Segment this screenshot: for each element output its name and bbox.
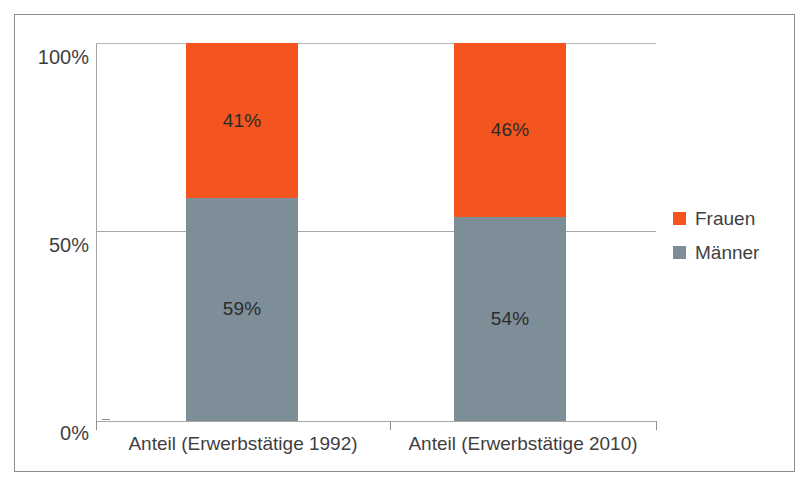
- bar-value-label: 54%: [491, 308, 530, 330]
- x-axis-tick-right: [656, 421, 657, 430]
- chart-legend: Frauen Männer: [673, 201, 793, 269]
- gridline-0: [96, 421, 656, 422]
- legend-swatch-frauen: [673, 212, 686, 225]
- bar-segment-maenner-2010[interactable]: 54%: [454, 217, 566, 421]
- legend-item-frauen[interactable]: Frauen: [673, 201, 793, 235]
- plot-area: 41% 59% 46% 54%: [96, 43, 656, 421]
- legend-label-frauen: Frauen: [695, 209, 755, 228]
- bar-segment-frauen-1992[interactable]: 41%: [186, 43, 298, 198]
- bar-value-label: 46%: [491, 119, 530, 141]
- chart-frame: 100% 50% 0% 41% 59% 46% 54%: [14, 14, 795, 472]
- x-axis-tick-middle: [390, 421, 391, 430]
- y-axis-label-50: 50%: [7, 235, 89, 255]
- bar-segment-maenner-1992[interactable]: 59%: [186, 198, 298, 421]
- y-axis-label-0: 0%: [7, 423, 89, 443]
- y-axis-label-100: 100%: [7, 47, 89, 67]
- legend-swatch-maenner: [673, 246, 686, 259]
- bar-segment-frauen-2010[interactable]: 46%: [454, 43, 566, 217]
- x-axis-category-label-2010: Anteil (Erwerbstätige 2010): [390, 433, 656, 455]
- bar-value-label: 41%: [223, 110, 262, 132]
- x-axis-tick-left: [96, 421, 97, 430]
- x-axis-category-label-1992: Anteil (Erwerbstätige 1992): [96, 433, 390, 455]
- legend-item-maenner[interactable]: Männer: [673, 235, 793, 269]
- legend-label-maenner: Männer: [695, 243, 759, 262]
- bar-value-label: 59%: [223, 298, 262, 320]
